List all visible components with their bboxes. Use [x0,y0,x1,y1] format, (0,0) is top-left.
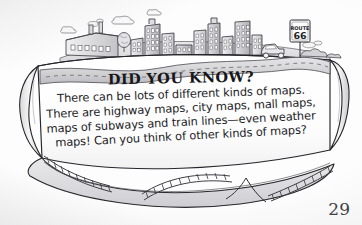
scroll-curl-right [330,60,349,150]
book-page: ROUTE 66 DID YOU KNOW? There can be lots… [0,0,362,225]
factory-building [66,22,118,57]
city-buildings [131,18,262,57]
illustration: ROUTE 66 [0,0,362,225]
page-number: 29 [328,199,350,219]
scroll-banner [20,55,349,208]
road-sign-number: 66 [293,30,307,41]
bushes [300,49,341,58]
